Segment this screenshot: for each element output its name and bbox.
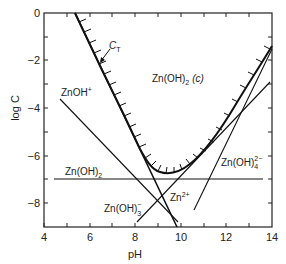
label-znoh: ZnOH+ (61, 86, 92, 98)
x-tick-labels: 4 6 8 10 12 14 (41, 231, 278, 243)
ct-curve (75, 13, 272, 173)
y-tick-neg4: −4 (27, 102, 40, 114)
line-znoh4 (194, 49, 272, 210)
label-znoh2: Zn(OH)2 (65, 166, 102, 179)
x-tick-8: 8 (132, 231, 138, 243)
y-tick-neg8: −8 (27, 197, 40, 209)
y-tick-neg6: −6 (27, 150, 40, 162)
label-znoh3: Zn(OH)3− (104, 201, 141, 217)
y-tick-0: 0 (34, 7, 40, 19)
label-solid-phase: Zn(OH)2(c) (152, 73, 204, 86)
species-lines (54, 13, 272, 227)
x-tick-12: 12 (220, 231, 232, 243)
y-tick-labels: 0 −2 −4 −6 −8 (27, 7, 40, 209)
label-znoh4: Zn(OH)42− (221, 155, 262, 170)
speciation-chart: 4 6 8 10 12 14 0 −2 −4 −6 −8 pH log C (0, 0, 286, 264)
y-tick-neg2: −2 (27, 54, 40, 66)
x-tick-14: 14 (266, 231, 278, 243)
x-ticks (44, 13, 249, 227)
label-zn2: Zn2+ (170, 191, 190, 203)
x-tick-4: 4 (41, 231, 47, 243)
x-tick-10: 10 (175, 231, 187, 243)
x-tick-6: 6 (87, 231, 93, 243)
label-ct: CT (109, 40, 121, 53)
x-axis-label: pH (128, 248, 142, 260)
y-axis-label: log C (9, 95, 21, 121)
